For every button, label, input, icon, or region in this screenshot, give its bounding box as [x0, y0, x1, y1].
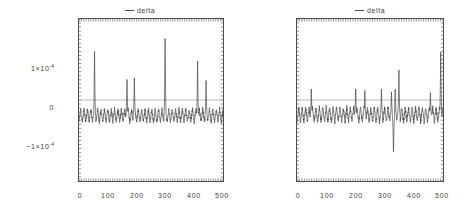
data-trace-left [79, 39, 223, 124]
x-tick-label-500: 500 [435, 192, 449, 199]
x-tick-label-400: 400 [407, 192, 421, 199]
legend-left: delta [125, 7, 155, 14]
x-tick-label-200: 200 [130, 192, 144, 199]
x-tick-label-200: 200 [349, 192, 363, 199]
legend-line-swatch-icon [355, 10, 364, 11]
x-tick-label-500: 500 [215, 192, 229, 199]
x-tick-label-100: 100 [320, 192, 334, 199]
x-tick-label-400: 400 [187, 192, 201, 199]
plot-canvas-left [79, 19, 223, 181]
figure-root: delta 1×10-4 0 −1×10-4 0 100 [0, 0, 475, 214]
plot-canvas-right [297, 19, 443, 181]
x-tick-label-300: 300 [158, 192, 172, 199]
y-tick-label-upper: 1×10-4 [0, 64, 54, 72]
x-tick-label-0: 0 [296, 192, 301, 199]
x-tick-label-100: 100 [101, 192, 115, 199]
plot-frame-right [296, 18, 444, 182]
x-tick-label-300: 300 [378, 192, 392, 199]
x-tick-label-0: 0 [78, 192, 83, 199]
legend-line-swatch-icon [125, 10, 134, 11]
y-tick-label-zero: 0 [0, 104, 54, 111]
legend-label: delta [137, 7, 155, 14]
legend-label: delta [367, 7, 385, 14]
chart-panel-right: delta 1×10-4 0 −1×10-4 0 100 [237, 0, 475, 214]
data-trace-right [297, 52, 443, 151]
legend-right: delta [355, 7, 385, 14]
plot-frame-left [78, 18, 224, 182]
y-tick-label-lower: −1×10-4 [0, 142, 54, 150]
